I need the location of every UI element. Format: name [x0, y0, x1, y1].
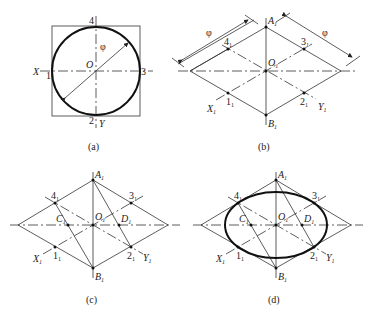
rhombus-side-helper — [190, 49, 228, 71]
label-2-1: 21 — [127, 250, 135, 262]
label-X1: X1 — [206, 103, 216, 115]
dimension-right — [286, 16, 352, 57]
isometric-circle-diagram: φ O X Y 1 2 3 4 (a) φ φ A1 B1 O1 X — [0, 0, 378, 311]
label-point-4: 4 — [89, 15, 94, 26]
label-O1: O1 — [278, 211, 288, 223]
label-dim-left: φ — [206, 27, 212, 38]
label-point-1: 1 — [46, 70, 51, 81]
label-4-1: 41 — [51, 190, 59, 202]
ext-tick-top-left — [245, 15, 258, 24]
label-C1: C1 — [239, 213, 249, 225]
label-1-1: 11 — [226, 96, 234, 108]
caption-c: (c) — [86, 294, 97, 306]
label-B1: B1 — [278, 271, 287, 283]
label-1-1: 11 — [236, 250, 244, 262]
panel-a: φ O X Y 1 2 3 4 (a) — [32, 15, 153, 153]
label-A1: A1 — [94, 169, 104, 181]
label-3-1: 31 — [301, 36, 309, 48]
point-1-1 — [227, 92, 230, 95]
label-Y1: Y1 — [318, 101, 327, 113]
label-A1: A1 — [277, 169, 287, 181]
label-dim-right: φ — [322, 27, 328, 38]
caption-d: (d) — [268, 294, 280, 306]
label-diameter: φ — [100, 41, 106, 52]
label-A1: A1 — [267, 15, 277, 27]
ext-tick-right — [346, 56, 360, 66]
label-O1: O1 — [95, 211, 105, 223]
label-point-2: 2 — [89, 115, 94, 126]
label-y-axis: Y — [99, 118, 106, 129]
y1-axis — [222, 45, 316, 99]
extension-left-outer — [178, 20, 254, 64]
label-Y1: Y1 — [143, 252, 152, 264]
label-2-1: 21 — [300, 96, 308, 108]
label-O1: O1 — [268, 57, 278, 69]
label-B1: B1 — [268, 118, 277, 130]
panel-b: φ φ A1 B1 O1 X1 Y1 41 31 11 21 (b) — [172, 13, 360, 153]
label-D1: D1 — [303, 213, 314, 225]
label-D1: D1 — [120, 213, 131, 225]
label-x-axis: X — [32, 66, 40, 77]
label-C1: C1 — [56, 213, 66, 225]
point-B1 — [265, 114, 268, 117]
x1-axis — [216, 44, 312, 100]
label-Y1: Y1 — [326, 252, 335, 264]
label-X1: X1 — [215, 253, 225, 265]
ext-tick-left — [172, 58, 184, 67]
label-4-1: 41 — [234, 190, 242, 202]
point-O1 — [265, 70, 268, 73]
label-3-1: 31 — [129, 190, 137, 202]
label-4-1: 41 — [224, 36, 232, 48]
caption-a: (a) — [88, 141, 99, 153]
label-1-1: 11 — [53, 250, 61, 262]
caption-b: (b) — [258, 141, 270, 153]
diameter-dimension — [65, 43, 128, 98]
point-2-1 — [303, 92, 306, 95]
label-B1: B1 — [95, 271, 104, 283]
label-center: O — [86, 59, 93, 70]
panel-c: A1 B1 O1 C1 D1 X1 Y1 41 31 11 21 (c) — [10, 169, 180, 306]
label-X1: X1 — [32, 253, 42, 265]
label-3-1: 31 — [312, 190, 320, 202]
label-2-1: 21 — [310, 250, 318, 262]
label-point-3: 3 — [141, 66, 146, 77]
panel-d: A1 B1 O1 C1 D1 X1 Y1 41 31 11 21 (d) — [193, 169, 363, 306]
